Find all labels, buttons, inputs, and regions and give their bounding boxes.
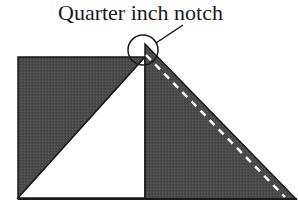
quilt-diagram [0,0,298,206]
leader-line [156,25,183,43]
right-dark-triangle [145,44,296,199]
